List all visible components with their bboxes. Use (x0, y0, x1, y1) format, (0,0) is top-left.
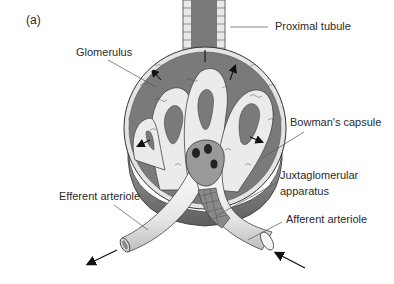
label-glomerulus: Glomerulus (76, 46, 132, 59)
label-juxtaglomerular-line1: Juxtaglomerular (280, 169, 358, 182)
label-afferent-arteriole: Afferent arteriole (286, 213, 367, 226)
label-efferent-arteriole: Efferent arteriole (59, 190, 140, 203)
panel-label: (a) (26, 14, 41, 27)
label-bowmans-capsule: Bowman's capsule (290, 116, 381, 129)
renal-corpuscle-diagram: (a) Glomerulus Proximal tubule Bowman's … (0, 0, 394, 284)
label-juxtaglomerular-line2: apparatus (280, 185, 329, 198)
label-proximal-tubule: Proximal tubule (275, 20, 351, 33)
diagram-illustration (0, 0, 394, 284)
